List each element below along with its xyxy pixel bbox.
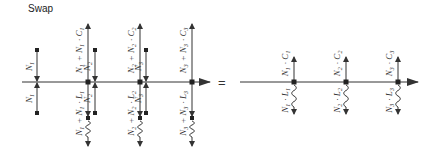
payment-date-square-icon: [86, 80, 91, 85]
notional-top-label: N1: [24, 61, 35, 72]
fixed-leg-label: N3 · C3: [384, 50, 395, 77]
payment-flow-1: N1 + N1 · C1 N1 + N1 · L1: [74, 24, 91, 146]
flow-start-square-icon: [144, 48, 148, 52]
floating-leg-label: N3 · L3: [384, 87, 395, 113]
floating-leg-wave-icon: [86, 121, 91, 137]
left-cashflow-diagram: N1 N1 N2 N2 N3 N3 N1 + N1 · C1 N1 + N1 ·…: [22, 24, 210, 146]
fixed-leg-label: N1 · C1: [280, 50, 291, 77]
flow-start-square-icon: [144, 111, 148, 115]
flow-start-square-icon: [93, 111, 97, 115]
payment-date-square-icon: [344, 80, 349, 85]
fixed-leg-label: N2 + N2 · C2: [126, 27, 137, 75]
floating-leg-wave-icon: [138, 121, 143, 137]
flow-start-square-icon: [86, 116, 90, 120]
equals-sign: =: [218, 75, 226, 90]
flow-start-square-icon: [35, 111, 39, 115]
floating-leg-label: N1 · L1: [280, 87, 291, 113]
floating-leg-label: N2 · L2: [332, 87, 343, 113]
notional-bottom-label: N1: [24, 93, 35, 104]
floating-leg-wave-icon: [190, 121, 195, 137]
flow-start-square-icon: [35, 48, 39, 52]
payment-date-square-icon: [190, 80, 195, 85]
fixed-leg-label: N2 · C2: [332, 50, 343, 77]
floating-leg-wave-icon: [292, 85, 297, 107]
swap-cashflow-diagram: N1 N1 N2 N2 N3 N3 N1 + N1 · C1 N1 + N1 ·…: [0, 0, 436, 157]
fixed-leg-label: N1 + N1 · C1: [74, 27, 85, 75]
flow-start-square-icon: [93, 48, 97, 52]
payment-date-square-icon: [138, 80, 143, 85]
payment-flow-3: N3 + N3 · C3 N3 + N3 · L3: [178, 24, 195, 146]
payment-date-square-icon: [396, 80, 401, 85]
flow-start-square-icon: [138, 116, 142, 120]
floating-leg-label: N1 + N1 · L1: [74, 90, 85, 137]
payment-flow-2: N2 + N2 · C2 N2 + N2 · L2: [126, 24, 143, 146]
right-cashflow-diagram: N1 · C1 N1 · L1 N2 · C2 N2 · L2 N3 · C3 …: [240, 50, 418, 114]
fixed-leg-label: N3 + N3 · C3: [178, 27, 189, 75]
payment-date-square-icon: [292, 80, 297, 85]
flow-start-square-icon: [190, 116, 194, 120]
floating-leg-wave-icon: [396, 85, 401, 107]
floating-leg-label: N3 + N3 · L3: [178, 90, 189, 137]
floating-leg-wave-icon: [344, 85, 349, 107]
floating-leg-label: N2 + N2 · L2: [126, 90, 137, 137]
